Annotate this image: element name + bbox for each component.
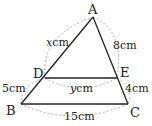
length-DB: 5cm (2, 82, 26, 95)
label-D: D (33, 66, 43, 81)
label-A: A (87, 2, 98, 17)
label-E: E (120, 65, 130, 80)
length-EC: 4cm (125, 82, 149, 95)
length-AD: xcm (46, 36, 69, 49)
label-B: B (6, 103, 16, 118)
edge-AC (93, 17, 128, 104)
length-DE: ycm (69, 82, 93, 95)
length-BC: 15cm (64, 110, 95, 123)
triangle-diagram: A D E B C xcm 8cm 5cm 4cm ycm 15cm (0, 0, 152, 126)
length-AE: 8cm (113, 39, 137, 52)
label-C: C (130, 105, 140, 120)
